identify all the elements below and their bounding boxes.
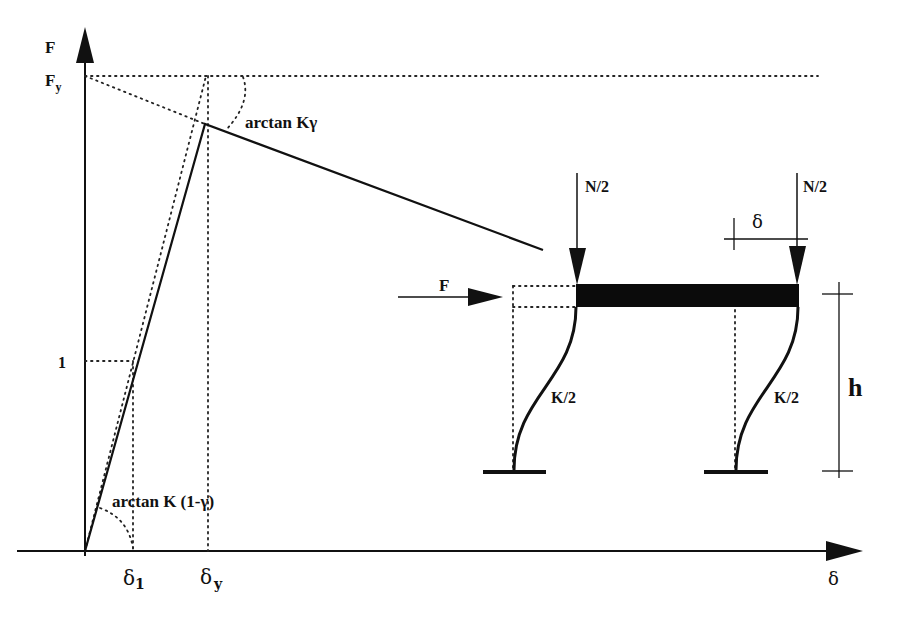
delta-1-label: δ1 <box>123 566 145 592</box>
axial-load-left-label: N/2 <box>585 178 609 195</box>
x-axis-arrow-icon <box>826 541 863 561</box>
post-yield-angle-label: arctan Kγ <box>245 113 317 132</box>
height-label: h <box>848 373 863 402</box>
axial-load-left-arrowhead-icon <box>569 248 586 285</box>
axial-load-right-label: N/2 <box>803 178 827 195</box>
initial-angle-label: arctan K (1-γ) <box>112 492 214 511</box>
frame-beam <box>576 284 799 307</box>
lateral-force-label: F <box>439 276 449 295</box>
right-column-stiffness-label: K/2 <box>774 389 799 406</box>
axial-load-right-arrowhead-icon <box>789 246 806 285</box>
diagram-canvas: F Fy 1 arctan Kγ arctan K (1-γ) δ1 δy δ … <box>0 0 908 621</box>
left-column-stiffness-label: K/2 <box>551 389 576 406</box>
y-axis-label: F <box>45 38 55 57</box>
lateral-force-arrowhead-icon <box>468 288 503 306</box>
elastic-dotted-line <box>85 76 206 551</box>
y-axis-arrow-icon <box>76 27 94 63</box>
fy-label: Fy <box>45 71 61 94</box>
guide-lines <box>85 76 818 551</box>
y-axis <box>76 27 94 556</box>
delta-y-label: δy <box>200 565 223 592</box>
drift-label: δ <box>752 211 763 232</box>
post-yield-angle-arc <box>226 77 245 130</box>
initial-angle-arc <box>100 508 133 548</box>
x-axis <box>17 541 863 561</box>
unit-level-label: 1 <box>58 354 66 371</box>
portal-frame: F N/2 N/2 δ K/2 K/2 <box>398 173 863 478</box>
force-displacement-curve <box>85 124 543 551</box>
x-axis-label: δ <box>828 568 839 589</box>
fy-to-yield-dotted-line <box>85 76 205 124</box>
